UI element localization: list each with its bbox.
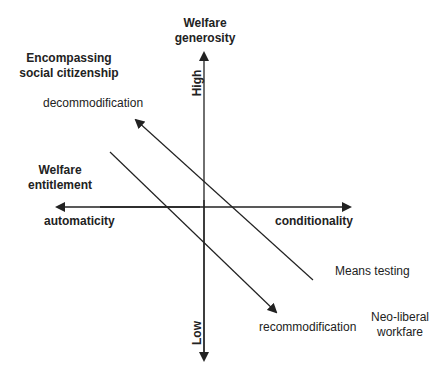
high-label: High xyxy=(190,63,204,103)
automaticity-label: automaticity xyxy=(44,214,115,229)
decommodification-label: decommodification xyxy=(43,96,143,111)
vertical-axis-title: Welfare generosity xyxy=(170,16,240,46)
decommodification-arrow xyxy=(136,120,313,280)
horizontal-axis-title: Welfare entitlement xyxy=(26,163,94,193)
low-label: Low xyxy=(190,313,204,353)
recommodification-label: recommodification xyxy=(259,320,356,335)
recommodification-arrow xyxy=(110,152,276,312)
encompassing-label: Encompassing social citizenship xyxy=(14,51,124,81)
neoliberal-label: Neo-liberal workfare xyxy=(370,310,430,340)
means-testing-label: Means testing xyxy=(335,264,410,279)
conditionality-label: conditionality xyxy=(275,214,353,229)
